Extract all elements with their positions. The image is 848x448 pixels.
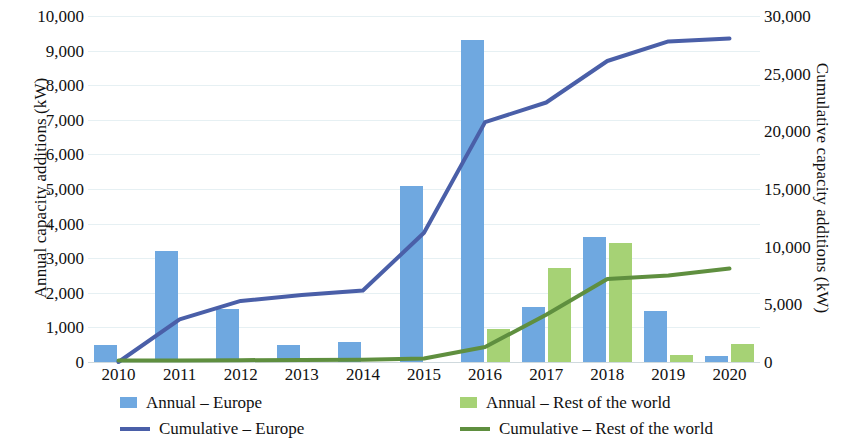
- y-axis-right-tick-label: 0: [764, 354, 773, 371]
- x-axis-tick-label: 2014: [332, 365, 393, 385]
- legend-item[interactable]: Annual – Rest of the world: [460, 394, 671, 411]
- legend-item[interactable]: Cumulative – Europe: [120, 420, 304, 437]
- legend-item-label: Annual – Europe: [146, 394, 262, 411]
- y-axis-right-tick-label: 20,000: [764, 123, 811, 140]
- legend-item[interactable]: Cumulative – Rest of the world: [460, 420, 713, 437]
- x-axis-tick-label: 2015: [393, 365, 454, 385]
- y-axis-left-tick-label: 1,000: [46, 319, 84, 336]
- y-axis-left-tick-label: 5,000: [46, 181, 84, 198]
- legend-item-label: Cumulative – Rest of the world: [499, 420, 713, 437]
- y-axis-right-tick-label: 25,000: [764, 66, 811, 83]
- x-axis-tick-label: 2019: [638, 365, 699, 385]
- line-series: [119, 39, 730, 363]
- plot-area: [88, 16, 760, 362]
- legend-item[interactable]: Annual – Europe: [120, 394, 262, 411]
- y-axis-left-tick-label: 10,000: [37, 8, 84, 25]
- y-axis-left-tick-label: 8,000: [46, 77, 84, 94]
- chart-container: Annual capacity additions (kW) Cumulativ…: [0, 0, 848, 448]
- x-axis-tick-label: 2018: [577, 365, 638, 385]
- x-axis-ticks: 2010201120122013201420152016201720182019…: [88, 362, 760, 390]
- y-axis-right-ticks: 05,00010,00015,00020,00025,00030,000: [764, 0, 836, 380]
- x-axis-tick-label: 2011: [149, 365, 210, 385]
- y-axis-left-tick-label: 4,000: [46, 216, 84, 233]
- y-axis-right-tick-label: 10,000: [764, 239, 811, 256]
- legend-swatch-icon: [120, 427, 150, 431]
- x-axis-tick-label: 2016: [455, 365, 516, 385]
- legend-swatch-icon: [460, 397, 477, 408]
- legend-item-label: Cumulative – Europe: [159, 420, 304, 437]
- y-axis-left-tick-label: 6,000: [46, 146, 84, 163]
- line-series: [119, 269, 730, 361]
- legend-item-label: Annual – Rest of the world: [486, 394, 671, 411]
- y-axis-left-tick-label: 3,000: [46, 250, 84, 267]
- x-axis-tick-label: 2010: [88, 365, 149, 385]
- x-axis-tick-label: 2013: [271, 365, 332, 385]
- x-axis-tick-label: 2017: [516, 365, 577, 385]
- chart-legend: Annual – EuropeAnnual – Rest of the worl…: [120, 392, 760, 444]
- y-axis-left-tick-label: 2,000: [46, 285, 84, 302]
- y-axis-left-ticks: 01,0002,0003,0004,0005,0006,0007,0008,00…: [16, 0, 84, 380]
- y-axis-right-tick-label: 30,000: [764, 8, 811, 25]
- y-axis-right-tick-label: 15,000: [764, 181, 811, 198]
- y-axis-left-tick-label: 0: [76, 354, 85, 371]
- x-axis-tick-label: 2012: [210, 365, 271, 385]
- y-axis-right-tick-label: 5,000: [764, 296, 802, 313]
- y-axis-left-tick-label: 7,000: [46, 112, 84, 129]
- legend-swatch-icon: [460, 427, 490, 431]
- legend-swatch-icon: [120, 397, 137, 408]
- x-axis-tick-label: 2020: [699, 365, 760, 385]
- y-axis-left-tick-label: 9,000: [46, 43, 84, 60]
- line-group: [88, 16, 760, 362]
